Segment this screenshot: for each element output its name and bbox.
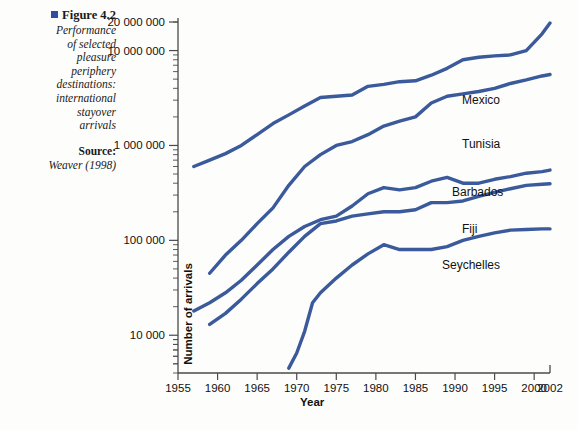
x-tick-label: 1955 — [165, 382, 191, 394]
series-label-mexico: Mexico — [462, 93, 500, 107]
x-tick-label: 1980 — [363, 382, 389, 394]
series-line-fiji — [210, 184, 550, 325]
y-tick-label: 100 000 — [0, 234, 165, 246]
y-tick-label: 1 000 000 — [0, 139, 165, 151]
line-chart: Number of arrivals Year 10 000100 0001 0… — [0, 0, 578, 430]
series-label-seychelles: Seychelles — [442, 258, 500, 272]
x-axis-label: Year — [300, 396, 324, 408]
x-tick-label: 1960 — [205, 382, 231, 394]
y-tick-label: 10 000 000 — [0, 45, 165, 57]
chart-canvas — [0, 0, 578, 430]
y-tick-label: 20 000 000 — [0, 16, 165, 28]
series-label-barbados: Barbados — [452, 185, 503, 199]
x-tick-label: 1975 — [324, 382, 350, 394]
figure-container: Figure 4.2 Performanceof selectedpleasur… — [0, 0, 578, 430]
x-tick-label: 1990 — [442, 382, 468, 394]
x-tick-label: 2002 — [537, 382, 563, 394]
series-line-seychelles — [289, 229, 550, 368]
series-label-fiji: Fiji — [462, 222, 477, 236]
x-tick-label: 1970 — [284, 382, 310, 394]
y-tick-label: 10 000 — [0, 329, 165, 341]
x-tick-label: 1965 — [244, 382, 270, 394]
x-tick-label: 1995 — [482, 382, 508, 394]
y-axis-label: Number of arrivals — [182, 229, 194, 399]
x-tick-label: 1985 — [403, 382, 429, 394]
y-axis-label-wrap: Number of arrivals — [112, 112, 132, 282]
series-label-tunisia: Tunisia — [462, 137, 500, 151]
